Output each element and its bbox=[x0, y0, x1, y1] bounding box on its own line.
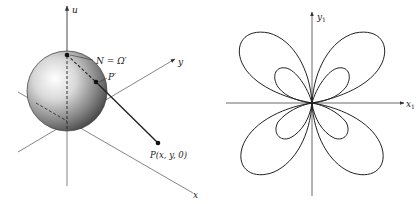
inner-loop-lower-right bbox=[312, 103, 348, 139]
outer-lobe-upper-left bbox=[239, 32, 312, 103]
label-plane-point: P(x, y, 0) bbox=[149, 150, 187, 160]
sphere-figure: u N = Ω′ P′ y P(x, y, 0) x bbox=[0, 0, 210, 204]
projection-line-outer bbox=[96, 82, 158, 143]
butterfly-figure: y1 x1 bbox=[210, 0, 418, 204]
point-p-prime bbox=[94, 80, 99, 85]
label-p-prime: P′ bbox=[107, 72, 116, 82]
label-y-axis: y bbox=[177, 57, 184, 67]
outer-lobe-lower-left bbox=[241, 103, 312, 175]
inner-loop-lower-left bbox=[276, 103, 312, 139]
point-p bbox=[156, 141, 161, 146]
label-y1-axis: y1 bbox=[316, 12, 326, 23]
label-x-axis: x bbox=[193, 190, 198, 200]
outer-lobe-upper-right bbox=[312, 32, 385, 103]
label-u-axis: u bbox=[72, 5, 78, 15]
stereographic-projection-diagram: u N = Ω′ P′ y P(x, y, 0) x bbox=[0, 0, 210, 204]
label-north: N = Ω′ bbox=[95, 56, 127, 66]
outer-lobe-lower-right bbox=[312, 103, 383, 175]
label-x1-axis: x1 bbox=[406, 99, 415, 110]
point-north bbox=[65, 53, 70, 58]
butterfly-curve-diagram: y1 x1 bbox=[210, 0, 418, 204]
